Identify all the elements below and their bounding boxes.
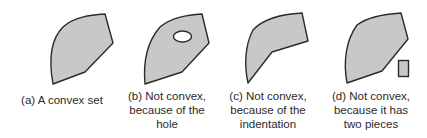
separate-piece-rect	[399, 61, 409, 77]
caption-d: (d) Not convex, because it has two piece…	[319, 89, 423, 131]
caption-line: because it has	[319, 103, 423, 117]
caption-line: because of the	[115, 103, 219, 117]
shape-with-hole	[145, 14, 209, 84]
convex-set-shape	[51, 14, 113, 84]
caption-line: hole	[115, 117, 219, 131]
caption-line: (a) A convex set	[10, 93, 114, 107]
caption-line: indentation	[216, 117, 320, 131]
caption-b: (b) Not convex, because of the hole	[115, 89, 219, 131]
caption-c: (c) Not convex, because of the indentati…	[216, 89, 320, 131]
caption-line: two pieces	[319, 117, 423, 131]
caption-line: (d) Not convex,	[319, 89, 423, 103]
indented-shape	[246, 13, 308, 83]
caption-line: because of the	[216, 103, 320, 117]
caption-line: (b) Not convex,	[115, 89, 219, 103]
caption-a: (a) A convex set	[10, 93, 114, 107]
caption-line: (c) Not convex,	[216, 89, 320, 103]
hole	[174, 31, 192, 42]
